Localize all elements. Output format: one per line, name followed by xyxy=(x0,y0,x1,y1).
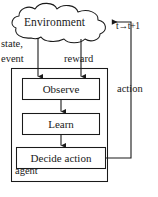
diagram-canvas: Environment state, event reward t→t+1 ac… xyxy=(0,0,158,197)
timestep-label: t→t+1 xyxy=(116,22,140,32)
reward-label: reward xyxy=(64,54,93,65)
state-event-label-line2: event xyxy=(1,54,24,65)
decide-action-label: Decide action xyxy=(16,152,106,164)
observe-label: Observe xyxy=(22,83,100,95)
learn-label: Learn xyxy=(22,118,100,130)
environment-label: Environment xyxy=(24,17,85,29)
action-label: action xyxy=(117,84,143,95)
state-event-label-line1: state, xyxy=(1,39,23,50)
agent-label: agent xyxy=(15,166,38,177)
